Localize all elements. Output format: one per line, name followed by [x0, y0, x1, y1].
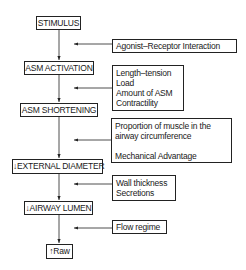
modifier-line: airway circumference: [115, 131, 229, 141]
modifier-line: Proportion of muscle in the: [115, 121, 229, 131]
modifier-line: Agonist–Receptor Interaction: [116, 41, 234, 51]
step-label: ↓AIRWAY LUMEN: [25, 203, 91, 213]
step-airway-lumen: ↓AIRWAY LUMEN: [24, 201, 93, 215]
step-raw: ↑Raw: [46, 244, 73, 259]
step-external-diameter: ↓EXTERNAL DIAMETER: [12, 159, 103, 174]
modifier-asm-factors: Length–tension Load Amount of ASM Contra…: [112, 65, 184, 111]
step-asm-activation: ASM ACTIVATION: [24, 61, 94, 75]
modifier-line: Wall thickness: [116, 178, 173, 188]
step-label: ASM ACTIVATION: [25, 63, 92, 73]
modifier-line: Contractility: [116, 98, 181, 108]
modifier-muscle-proportion: Proportion of muscle in the airway circu…: [111, 118, 232, 163]
step-label: ASM SHORTENING: [22, 105, 97, 115]
modifier-line: [115, 141, 229, 151]
step-stimulus: STIMULUS: [36, 16, 81, 30]
step-label: STIMULUS: [38, 18, 79, 28]
modifier-flow-regime: Flow regime: [112, 220, 167, 234]
modifier-agonist-receptor: Agonist–Receptor Interaction: [112, 39, 237, 53]
modifier-wall-secretions: Wall thickness Secretions: [112, 175, 176, 201]
modifier-line: Length–tension: [116, 68, 181, 78]
step-asm-shortening: ASM SHORTENING: [20, 103, 98, 117]
modifier-line: Amount of ASM: [116, 88, 181, 98]
step-label: ↑Raw: [49, 246, 69, 256]
modifier-line: Load: [116, 78, 181, 88]
step-label: ↓EXTERNAL DIAMETER: [13, 161, 105, 171]
modifier-line: Mechanical Advantage: [115, 151, 229, 161]
modifier-line: Secretions: [116, 188, 173, 198]
modifier-line: Flow regime: [116, 222, 164, 232]
